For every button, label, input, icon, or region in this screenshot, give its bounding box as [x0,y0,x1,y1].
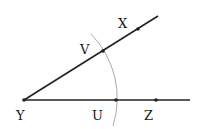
geometry-diagram: YXVUZ [0,0,201,129]
point-v [101,49,105,53]
point-z [154,98,158,102]
point-x [136,27,140,31]
label-z: Z [144,108,153,123]
label-y: Y [15,108,25,123]
label-u: U [92,108,103,123]
point-y [22,98,26,102]
point-u [114,98,118,102]
label-v: V [79,42,90,57]
label-x: X [118,16,128,31]
